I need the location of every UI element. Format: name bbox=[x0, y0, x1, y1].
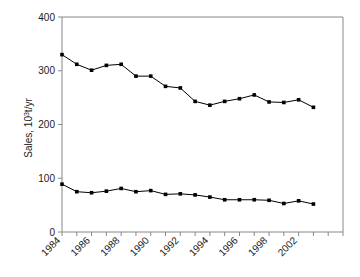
y-axis-title-base: Sales, 10 bbox=[23, 116, 34, 158]
y-axis-title: Sales, 103t/yr bbox=[23, 98, 34, 158]
x-tick-label: 1994 bbox=[187, 234, 211, 258]
data-point bbox=[282, 101, 286, 105]
y-tick-label: 200 bbox=[38, 119, 55, 130]
data-point bbox=[193, 100, 197, 104]
data-point bbox=[179, 86, 183, 90]
data-point bbox=[282, 202, 286, 206]
data-point bbox=[179, 192, 183, 196]
x-tick-label: 1992 bbox=[157, 234, 181, 258]
y-tick-label: 400 bbox=[38, 12, 55, 23]
y-axis-tick-labels: 0100200300400 bbox=[38, 12, 55, 238]
data-point bbox=[90, 191, 94, 195]
data-point bbox=[164, 85, 168, 89]
data-point bbox=[223, 100, 227, 104]
y-tick-label: 100 bbox=[38, 173, 55, 184]
x-tick-label: 1996 bbox=[216, 234, 240, 258]
data-point bbox=[75, 190, 79, 194]
data-point bbox=[134, 190, 138, 194]
series-upper-series bbox=[60, 53, 315, 109]
x-tick-label: 2002 bbox=[276, 234, 300, 258]
data-point bbox=[223, 198, 227, 202]
data-point bbox=[60, 53, 64, 57]
data-point bbox=[312, 202, 316, 206]
x-tick-label: 1984 bbox=[39, 234, 63, 258]
data-point bbox=[60, 182, 64, 186]
data-point bbox=[312, 106, 316, 110]
y-tick-label: 300 bbox=[38, 65, 55, 76]
series-line bbox=[62, 184, 313, 204]
data-point bbox=[75, 63, 79, 67]
series-lower-series bbox=[60, 182, 315, 205]
x-tick-label-group: 1994 bbox=[187, 234, 211, 258]
data-point bbox=[105, 64, 109, 68]
svg-text:Sales, 103t/yr: Sales, 103t/yr bbox=[23, 98, 34, 158]
data-point bbox=[208, 195, 212, 199]
data-point bbox=[238, 97, 242, 101]
x-tick-label: 1990 bbox=[128, 234, 152, 258]
x-tick-label-group: 1996 bbox=[216, 234, 240, 258]
line-chart-svg: 0100200300400 19841986198819901992199419… bbox=[0, 0, 360, 277]
data-series-layer bbox=[60, 53, 315, 206]
x-tick-label-group: 1992 bbox=[157, 234, 181, 258]
series-line bbox=[62, 55, 313, 108]
x-tick-label-group: 1990 bbox=[128, 234, 152, 258]
data-point bbox=[252, 198, 256, 202]
data-point bbox=[149, 189, 153, 193]
x-tick-label-group: 1984 bbox=[39, 234, 63, 258]
chart-figure: 0100200300400 19841986198819901992199419… bbox=[0, 0, 360, 277]
x-tick-label: 1986 bbox=[68, 234, 92, 258]
y-axis-ticks bbox=[58, 17, 62, 232]
data-point bbox=[208, 103, 212, 107]
x-tick-label-group: 1988 bbox=[98, 234, 122, 258]
data-point bbox=[267, 100, 271, 104]
y-axis-title-suffix: t/yr bbox=[23, 98, 34, 113]
data-point bbox=[252, 93, 256, 97]
data-point bbox=[119, 187, 123, 191]
x-tick-label-group: 2002 bbox=[276, 234, 300, 258]
data-point bbox=[164, 193, 168, 197]
data-point bbox=[297, 199, 301, 203]
x-tick-label-group: 1986 bbox=[68, 234, 92, 258]
x-tick-label: 1988 bbox=[98, 234, 122, 258]
data-point bbox=[119, 63, 123, 67]
x-tick-label-group: 1998 bbox=[246, 234, 270, 258]
data-point bbox=[267, 198, 271, 202]
x-axis-tick-labels: 198419861988199019921994199619982002 bbox=[39, 234, 299, 258]
data-point bbox=[105, 189, 109, 193]
data-point bbox=[297, 98, 301, 102]
data-point bbox=[193, 193, 197, 197]
data-point bbox=[238, 198, 242, 202]
x-tick-label: 1998 bbox=[246, 234, 270, 258]
data-point bbox=[134, 74, 138, 78]
plot-frame bbox=[62, 17, 343, 232]
data-point bbox=[149, 74, 153, 78]
data-point bbox=[90, 68, 94, 72]
